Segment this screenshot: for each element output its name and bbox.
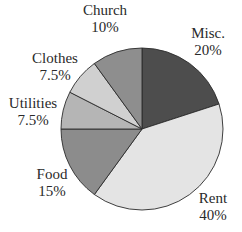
label-food: Food 15% xyxy=(30,166,74,200)
label-food-name: Food xyxy=(30,166,74,183)
label-clothes-name: Clothes xyxy=(28,50,82,67)
label-utilities: Utilities 7.5% xyxy=(6,95,60,129)
label-misc-pct: 20% xyxy=(186,42,230,59)
label-misc: Misc. 20% xyxy=(186,25,230,59)
label-clothes-pct: 7.5% xyxy=(28,67,82,84)
label-misc-name: Misc. xyxy=(186,25,230,42)
label-church-pct: 10% xyxy=(82,19,128,36)
label-church: Church 10% xyxy=(82,2,128,36)
label-rent: Rent 40% xyxy=(192,190,234,224)
label-utilities-name: Utilities xyxy=(6,95,60,112)
label-food-pct: 15% xyxy=(30,183,74,200)
label-church-name: Church xyxy=(82,2,128,19)
label-rent-pct: 40% xyxy=(192,207,234,224)
label-clothes: Clothes 7.5% xyxy=(28,50,82,84)
label-utilities-pct: 7.5% xyxy=(6,112,60,129)
label-rent-name: Rent xyxy=(192,190,234,207)
